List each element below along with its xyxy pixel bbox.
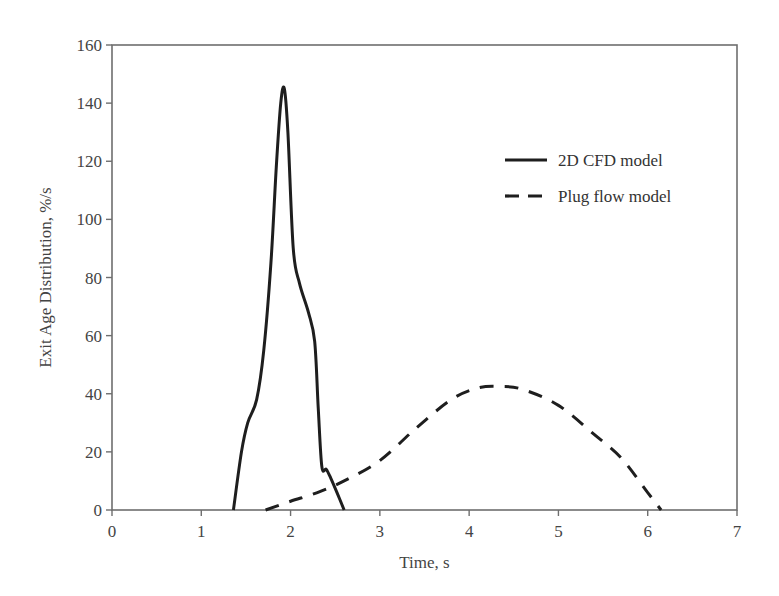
x-tick-label: 5 [554,522,563,541]
legend-label: Plug flow model [558,187,672,206]
x-tick-label: 3 [376,522,385,541]
y-tick-label: 80 [85,269,102,288]
y-tick-label: 40 [85,385,102,404]
x-tick-label: 6 [643,522,652,541]
x-tick-label: 7 [733,522,742,541]
2d-cfd-model-line [233,87,344,510]
y-tick-label: 100 [77,210,103,229]
y-tick-label: 120 [77,152,103,171]
chart-canvas: 02040608010012014016001234567Time, sExit… [0,0,779,596]
y-tick-label: 60 [85,327,102,346]
y-tick-label: 20 [85,443,102,462]
legend-label: 2D CFD model [558,151,663,170]
x-axis-title: Time, s [399,553,449,572]
x-tick-label: 2 [286,522,295,541]
y-tick-label: 160 [77,36,103,55]
y-tick-label: 0 [94,501,103,520]
x-tick-label: 0 [108,522,117,541]
x-tick-label: 1 [197,522,206,541]
y-axis-title: Exit Age Distribution, %/s [36,187,55,367]
plot-frame [112,45,737,510]
x-tick-label: 4 [465,522,474,541]
plug-flow-model-line [266,386,662,510]
y-tick-label: 140 [77,94,103,113]
